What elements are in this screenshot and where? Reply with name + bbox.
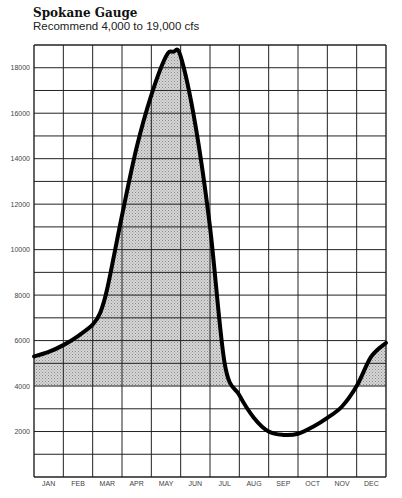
x-month-label: NOV	[334, 480, 350, 487]
y-tick-label: 16000	[11, 110, 31, 117]
flow-chart: 2000400060008000100001200014000160001800…	[0, 0, 402, 498]
y-tick-label: 10000	[11, 246, 31, 253]
y-tick-label: 2000	[14, 428, 30, 435]
x-month-label: FEB	[71, 480, 85, 487]
x-month-label: DEC	[364, 480, 379, 487]
y-tick-label: 14000	[11, 155, 31, 162]
y-axis-ticks: 2000400060008000100001200014000160001800…	[11, 64, 31, 435]
x-axis-month-labels: JANFEBMARAPRMAYJUNJULAUGSEPOCTNOVDEC	[42, 480, 379, 487]
x-month-label: JAN	[42, 480, 55, 487]
x-month-label: SEP	[276, 480, 290, 487]
x-month-label: APR	[129, 480, 143, 487]
y-tick-label: 8000	[14, 292, 30, 299]
y-tick-label: 6000	[14, 337, 30, 344]
x-month-label: MAY	[159, 480, 174, 487]
y-tick-label: 18000	[11, 64, 31, 71]
y-tick-label: 4000	[14, 383, 30, 390]
x-month-label: MAR	[100, 480, 116, 487]
x-month-label: AUG	[246, 480, 261, 487]
x-month-label: OCT	[305, 480, 321, 487]
x-month-label: JUN	[189, 480, 203, 487]
y-tick-label: 12000	[11, 201, 31, 208]
x-month-label: JUL	[218, 480, 231, 487]
